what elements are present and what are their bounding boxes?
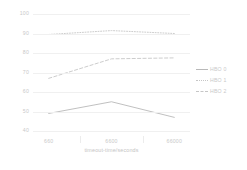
y-tick-label: 60 [23, 89, 29, 94]
y-tick-label: 40 [23, 128, 29, 133]
series-line [49, 102, 175, 118]
x-axis: 660660066000 [33, 136, 190, 146]
x-tick-divider [80, 136, 81, 143]
y-tick-label: 100 [20, 11, 29, 16]
line-chart: 100908070605040 660660066000 timeout-tim… [0, 0, 247, 170]
y-axis: 100908070605040 [0, 14, 29, 131]
gridline [33, 131, 190, 132]
x-axis-title: timeout-time/seconds [33, 148, 190, 153]
legend-swatch-dashed-icon [196, 91, 208, 92]
gridline [33, 34, 190, 35]
legend-item[interactable]: HBO 0 [196, 64, 246, 75]
gridline [33, 53, 190, 54]
y-tick-label: 90 [23, 31, 29, 36]
legend-item[interactable]: HBO 2 [196, 86, 246, 97]
legend-label: HBO 0 [210, 67, 227, 72]
legend-swatch-dotted-icon [196, 80, 208, 81]
y-tick-label: 70 [23, 70, 29, 75]
x-tick-divider [143, 136, 144, 143]
gridline [33, 14, 190, 15]
gridline [33, 92, 190, 93]
y-tick-label: 80 [23, 50, 29, 55]
gridline [33, 112, 190, 113]
legend-item[interactable]: HBO 1 [196, 75, 246, 86]
chart-legend: HBO 0HBO 1HBO 2 [196, 64, 246, 97]
plot-area [33, 14, 190, 131]
legend-label: HBO 1 [210, 78, 227, 83]
y-tick-label: 50 [23, 109, 29, 114]
legend-label: HBO 2 [210, 89, 227, 94]
legend-swatch-solid-icon [196, 69, 208, 70]
series-line [49, 58, 175, 78]
x-tick-label: 660 [44, 139, 53, 144]
gridline [33, 73, 190, 74]
x-tick-label: 6600 [105, 139, 117, 144]
x-tick-label: 66000 [167, 139, 182, 144]
